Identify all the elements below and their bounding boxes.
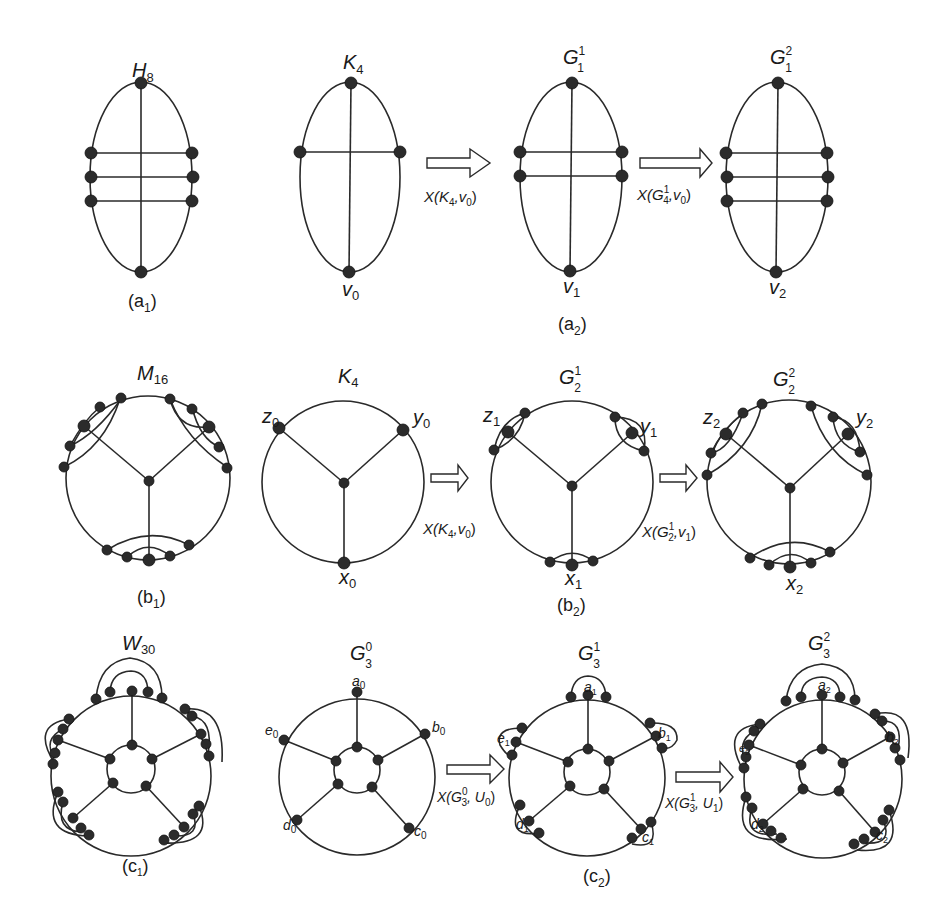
right-arrow-icon bbox=[640, 149, 712, 177]
graph-title: K4 bbox=[338, 365, 359, 390]
vertex-label-c1: c1 bbox=[642, 829, 654, 847]
vertex-label-z1: z1 bbox=[482, 404, 500, 429]
graph-title: K4 bbox=[343, 51, 364, 77]
right-arrow-icon bbox=[676, 762, 733, 792]
panel-caption-a2: (a2) bbox=[558, 314, 587, 338]
graph-g1-1: G11 v1 (a2) bbox=[514, 44, 628, 338]
graph-g2-2: G22 z2 y2 x2 bbox=[702, 366, 873, 597]
arrow-label: X(K4,v0) bbox=[423, 188, 477, 208]
vertex-label-b0: b0 bbox=[432, 719, 446, 737]
right-arrow-icon bbox=[431, 465, 468, 491]
panel-caption-a1: (a1) bbox=[128, 291, 157, 315]
vertex-label-x1: x1 bbox=[564, 567, 582, 592]
arrow-a1: X(K4,v0) bbox=[423, 149, 490, 208]
figure-canvas: H8 (a1) K4 v0 X(K4,v0) G11 bbox=[0, 0, 950, 923]
arrow-c1: X(G03, U0) bbox=[436, 755, 504, 808]
vertex-label-e1: e1 bbox=[497, 730, 510, 748]
graph-k4-a: K4 v0 bbox=[294, 51, 406, 303]
graph-g3-2: G23 bbox=[735, 630, 909, 858]
graph-title: G22 bbox=[773, 366, 796, 397]
vertex-label-a2: a2 bbox=[818, 677, 831, 695]
graph-g2-1: G12 z1 y1 x1 (b2) bbox=[482, 364, 657, 619]
vertex-label-y1: y1 bbox=[638, 415, 657, 440]
panel-caption-b2: (b2) bbox=[557, 595, 586, 619]
vertex-label-z2: z2 bbox=[702, 406, 720, 431]
panel-caption-c2: (c2) bbox=[583, 866, 611, 890]
arrow-a2: X(G14,v0) bbox=[636, 149, 712, 206]
arrow-label: X(G03, U0) bbox=[436, 786, 495, 808]
graph-w30: W30 bbox=[45, 632, 222, 878]
arrow-c2: X(G13, U1) bbox=[664, 762, 733, 814]
graph-h8: H8 (a1) bbox=[85, 59, 199, 315]
vertex-label-v0: v0 bbox=[342, 278, 359, 303]
graph-title: G13 bbox=[578, 640, 601, 671]
vertex-label-a1: a1 bbox=[584, 679, 597, 697]
graph-title: M16 bbox=[137, 362, 168, 387]
vertex-label-x0: x0 bbox=[338, 566, 356, 591]
graph-g3-1: G13 a1 b1 c1 d1 bbox=[497, 640, 677, 890]
arrow-b1: X(K4,v0) bbox=[422, 465, 476, 540]
vertex-label-y0: y0 bbox=[411, 406, 430, 431]
vertex-label-b1: b1 bbox=[658, 725, 671, 743]
graph-m16: M16 (b1) bbox=[59, 362, 232, 611]
right-arrow-icon bbox=[660, 465, 697, 491]
vertex-label-e0: e0 bbox=[265, 722, 279, 740]
vertex-label-x2: x2 bbox=[785, 572, 803, 597]
vertex-label-d2: d2 bbox=[751, 816, 764, 834]
arrow-label: X(K4,v0) bbox=[422, 520, 476, 540]
graph-g1-2: G21 v2 bbox=[720, 44, 834, 301]
panel-caption-b1: (b1) bbox=[137, 587, 166, 611]
arrow-label: X(G12,v1) bbox=[641, 521, 696, 543]
vertex-label-a0: a0 bbox=[352, 673, 366, 691]
vertex-label-y2: y2 bbox=[854, 406, 873, 431]
graph-title: G21 bbox=[770, 44, 793, 75]
right-arrow-icon bbox=[427, 149, 490, 177]
vertex-label-c0: c0 bbox=[414, 823, 427, 841]
graph-title: G23 bbox=[808, 630, 831, 661]
arrow-label: X(G13, U1) bbox=[664, 792, 723, 814]
arrow-label: X(G14,v0) bbox=[636, 184, 691, 206]
right-arrow-icon bbox=[447, 755, 504, 783]
graph-title: W30 bbox=[122, 632, 155, 657]
vertex-label-v2: v2 bbox=[769, 276, 786, 301]
panel-caption-c1: (c1) bbox=[122, 856, 149, 878]
graph-g3-0: G03 a0 b0 c0 d0 e0 bbox=[265, 640, 446, 855]
graph-k4-b: K4 z0 y0 x0 bbox=[261, 365, 430, 591]
graph-title: G12 bbox=[559, 364, 582, 395]
vertex-label-v1: v1 bbox=[563, 275, 580, 300]
vertex-label-b2: b2 bbox=[886, 729, 899, 747]
graph-title: G03 bbox=[350, 640, 373, 671]
vertex-label-z0: z0 bbox=[261, 405, 279, 430]
graph-title: G11 bbox=[563, 44, 586, 75]
